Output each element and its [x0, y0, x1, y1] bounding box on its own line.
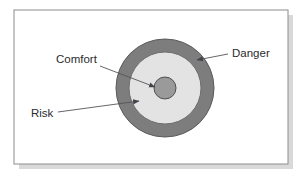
label-risk: Risk [31, 107, 54, 119]
diagram-svg: Comfort Danger Risk [0, 0, 304, 179]
concentric-zone-diagram: Comfort Danger Risk [0, 0, 304, 179]
figure-canvas: Comfort Danger Risk [0, 0, 304, 179]
zone-comfort-circle [154, 77, 176, 99]
label-comfort: Comfort [56, 53, 98, 65]
label-danger: Danger [232, 47, 270, 59]
